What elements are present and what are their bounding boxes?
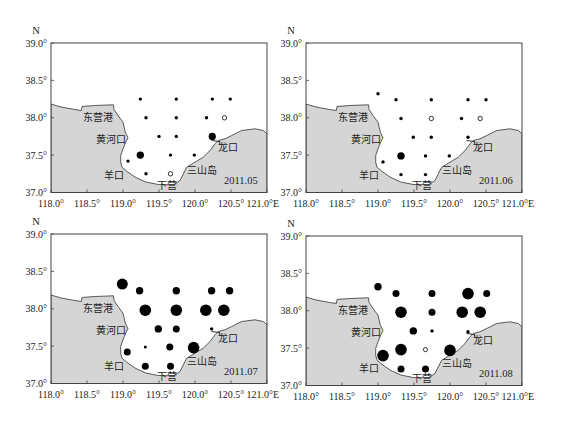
place-label-longkou: 龙口 xyxy=(473,333,493,345)
panel-date-label: 2011.06 xyxy=(479,175,513,186)
bohai-bay-station-maps-figure: 东营港黄河口龙口三山岛羊口下营2011.05118.0°118.5°119.0°… xyxy=(0,0,567,425)
y-tick-label: 38.5° xyxy=(281,75,303,86)
y-tick-label: 37.5° xyxy=(26,149,48,160)
station-dot-open xyxy=(168,171,172,175)
station-dot-filled xyxy=(430,136,433,139)
station-dot-filled xyxy=(466,136,469,139)
station-dot-filled xyxy=(466,98,469,101)
station-dot-filled xyxy=(399,117,402,120)
north-axis-label: N xyxy=(32,216,40,227)
station-dot-filled xyxy=(139,97,142,100)
place-label-dongying-port: 东营港 xyxy=(337,304,367,316)
station-dot-filled xyxy=(428,308,435,315)
station-dot-filled xyxy=(226,287,233,294)
place-label-xiaying: 下营 xyxy=(156,370,176,382)
station-dot-filled xyxy=(483,290,490,297)
x-tick-label: 120.5° xyxy=(473,198,500,209)
y-tick-label: 39.0° xyxy=(280,230,302,241)
station-dot-filled xyxy=(200,304,212,316)
station-dot-filled xyxy=(157,134,160,137)
station-dot-filled xyxy=(444,344,456,356)
station-dot-filled xyxy=(175,134,178,137)
north-axis-label: N xyxy=(287,25,295,36)
x-tick-label: 118.0° xyxy=(38,197,64,208)
station-dot-filled xyxy=(175,116,178,119)
station-dot-filled xyxy=(392,290,399,297)
y-tick-label: 38.0° xyxy=(26,112,48,123)
station-dot-filled xyxy=(484,98,487,101)
x-tick-label: 121.0°E xyxy=(501,198,534,209)
y-tick-label: 38.5° xyxy=(25,266,47,277)
place-label-xiaying: 下营 xyxy=(157,179,177,191)
station-dot-filled xyxy=(229,97,232,100)
place-label-xiaying: 下营 xyxy=(412,179,432,191)
place-label-longkou: 龙口 xyxy=(218,332,238,344)
station-dot-filled xyxy=(394,98,397,101)
place-label-dongying-port: 东营港 xyxy=(338,111,368,123)
station-dot-filled xyxy=(144,172,147,175)
x-tick-label: 118.5° xyxy=(328,390,354,401)
x-tick-label: 121.0°E xyxy=(501,390,534,401)
station-dot-filled xyxy=(141,363,148,370)
y-tick-label: 37.5° xyxy=(25,341,47,352)
place-label-yangkou: 羊口 xyxy=(104,169,124,181)
north-axis-label: N xyxy=(32,25,40,36)
x-tick-label: 120.0° xyxy=(182,197,209,208)
station-dot-filled xyxy=(462,287,474,299)
y-tick-label: 37.5° xyxy=(281,150,303,161)
station-dot-filled xyxy=(123,349,130,356)
y-tick-label: 39.0° xyxy=(25,229,47,240)
x-tick-label: 119.5° xyxy=(401,198,427,209)
x-tick-label: 120.0° xyxy=(436,390,463,401)
map-canvas: 东营港黄河口龙口三山岛羊口下营2011.07118.0°118.5°119.0°… xyxy=(16,212,301,402)
station-dot-filled xyxy=(116,279,127,290)
station-dot-filled xyxy=(395,343,407,355)
x-tick-label: 118.0° xyxy=(292,390,318,401)
map-panel-2011-06: 东营港黄河口龙口三山岛羊口下营2011.06118.0°118.5°119.0°… xyxy=(271,21,556,211)
x-tick-label: 120.5° xyxy=(218,197,245,208)
y-tick-label: 39.0° xyxy=(281,38,303,49)
station-dot-filled xyxy=(208,287,215,294)
station-dot-filled xyxy=(422,365,429,372)
y-tick-label: 37.0° xyxy=(280,380,302,391)
station-dot-filled xyxy=(172,287,179,294)
station-dot-filled xyxy=(167,363,174,370)
station-dot-filled xyxy=(460,117,463,120)
panel-date-label: 2011.08 xyxy=(479,368,513,379)
x-tick-label: 118.5° xyxy=(74,197,100,208)
station-dot-filled xyxy=(399,173,402,176)
place-label-yellow-river-mouth: 黄河口 xyxy=(351,133,381,145)
map-panel-2011-07: 东营港黄河口龙口三山岛羊口下营2011.07118.0°118.5°119.0°… xyxy=(16,212,301,402)
x-tick-label: 119.5° xyxy=(146,197,172,208)
station-dot-filled xyxy=(430,329,433,332)
y-tick-label: 37.0° xyxy=(26,187,48,198)
x-tick-label: 120.0° xyxy=(437,198,464,209)
y-tick-label: 38.5° xyxy=(280,267,302,278)
station-dot-filled xyxy=(154,325,161,332)
station-dot-filled xyxy=(172,325,179,332)
station-dot-filled xyxy=(136,287,143,294)
station-dot-filled xyxy=(409,327,416,334)
station-dot-filled xyxy=(137,151,144,158)
station-dot-filled xyxy=(397,365,404,372)
x-tick-label: 119.5° xyxy=(400,390,426,401)
north-axis-label: N xyxy=(287,218,295,229)
station-dot-filled xyxy=(187,342,199,354)
station-dot-filled xyxy=(374,283,381,290)
place-label-dongying-port: 东营港 xyxy=(82,302,112,314)
station-dot-open xyxy=(429,116,433,120)
panel-date-label: 2011.05 xyxy=(224,175,258,186)
station-dot-open xyxy=(423,347,427,351)
station-dot-filled xyxy=(395,306,407,318)
place-label-longkou: 龙口 xyxy=(218,140,238,152)
map-canvas: 东营港黄河口龙口三山岛羊口下营2011.06118.0°118.5°119.0°… xyxy=(271,21,556,211)
x-tick-label: 119.0° xyxy=(110,389,136,400)
station-dot-filled xyxy=(448,154,451,157)
station-dot-filled xyxy=(211,97,214,100)
x-tick-label: 118.0° xyxy=(38,389,64,400)
station-dot-filled xyxy=(169,153,172,156)
station-dot-filled xyxy=(139,304,151,316)
y-tick-label: 38.0° xyxy=(281,112,303,123)
place-label-yellow-river-mouth: 黄河口 xyxy=(350,326,380,338)
x-tick-label: 120.0° xyxy=(181,389,208,400)
